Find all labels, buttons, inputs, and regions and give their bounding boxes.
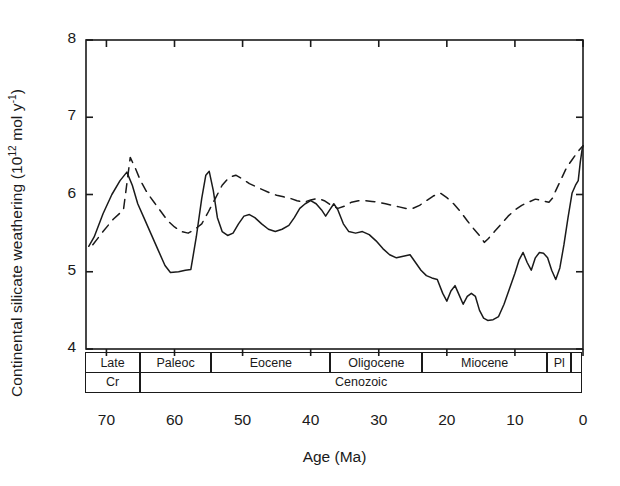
series-dashed-curve: [93, 146, 583, 245]
plot-frame: [86, 40, 583, 349]
series-solid-curve: [89, 146, 583, 321]
chart-figure: Continental silicate weathering (1012 mo…: [0, 0, 620, 486]
plot-canvas: [0, 0, 620, 486]
